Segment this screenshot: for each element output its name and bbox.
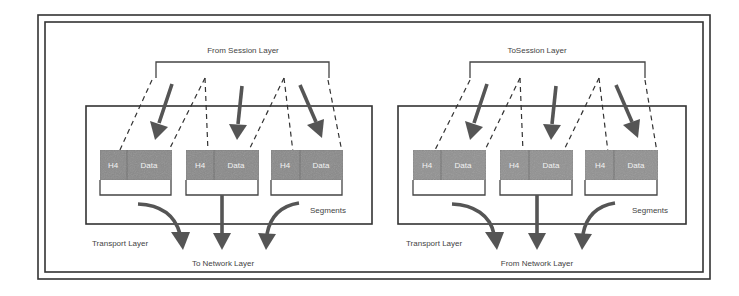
segments-label: Segments xyxy=(310,206,346,215)
from-session-layer-label: From Session Layer xyxy=(207,46,279,55)
left-panel-sender: From Session Layer H4 Da xyxy=(86,46,372,268)
arrowhead-icon xyxy=(213,233,231,250)
curved-arrow-icon xyxy=(452,204,494,234)
arrowhead-icon xyxy=(258,233,276,250)
curved-arrow-icon xyxy=(138,204,180,234)
segment-3-header: H4 xyxy=(280,161,291,170)
segment-2-data: Data xyxy=(543,161,560,170)
segment-1-data: Data xyxy=(141,161,158,170)
arrowhead-icon xyxy=(150,121,168,140)
segment-brackets xyxy=(100,180,342,195)
transport-layer-label: Transport Layer xyxy=(92,239,149,248)
arrow-down-icon xyxy=(552,86,556,124)
split-arrows xyxy=(150,84,324,140)
to-network-layer-label: To Network Layer xyxy=(192,259,255,268)
split-dashed-lines xyxy=(119,78,342,152)
arrow-down-icon xyxy=(300,85,316,122)
arrowhead-icon xyxy=(465,121,483,140)
session-data-bracket xyxy=(470,62,645,78)
arrowhead-icon xyxy=(485,232,504,250)
arrow-down-icon xyxy=(159,84,172,123)
arrowhead-icon xyxy=(528,233,546,250)
segment-2-header: H4 xyxy=(195,161,206,170)
reassembly-dashed-lines xyxy=(434,78,657,152)
segment-1-header: H4 xyxy=(422,161,433,170)
segment-3-data: Data xyxy=(313,161,330,170)
from-network-layer-label: From Network Layer xyxy=(501,259,574,268)
reassembly-arrows xyxy=(465,84,640,140)
curved-arrow-icon xyxy=(267,203,299,234)
transport-layer-label: Transport Layer xyxy=(406,239,463,248)
transport-layer-diagram: From Session Layer H4 Da xyxy=(0,0,739,296)
curved-arrow-icon xyxy=(583,203,615,234)
to-session-layer-label: ToSession Layer xyxy=(507,46,566,55)
arrow-down-icon xyxy=(616,85,632,122)
inner-frame xyxy=(45,22,703,272)
arrowhead-icon xyxy=(543,124,561,140)
arrowhead-icon xyxy=(574,233,592,250)
arrowhead-icon xyxy=(171,232,190,250)
arrow-down-icon xyxy=(474,84,487,123)
merge-arrows xyxy=(138,195,299,250)
session-data-bracket xyxy=(156,62,329,78)
segment-1-data: Data xyxy=(455,161,472,170)
segment-3-header: H4 xyxy=(595,161,606,170)
segments-label: Segments xyxy=(632,206,668,215)
network-arrows xyxy=(452,195,615,250)
segment-2-data: Data xyxy=(228,161,245,170)
segment-1-header: H4 xyxy=(108,161,119,170)
segment-brackets xyxy=(413,180,657,195)
arrow-down-icon xyxy=(238,86,242,124)
right-panel-receiver: ToSession Layer H4 Data xyxy=(398,46,686,268)
segment-2-header: H4 xyxy=(509,161,520,170)
arrowhead-icon xyxy=(229,124,247,140)
segment-3-data: Data xyxy=(628,161,645,170)
